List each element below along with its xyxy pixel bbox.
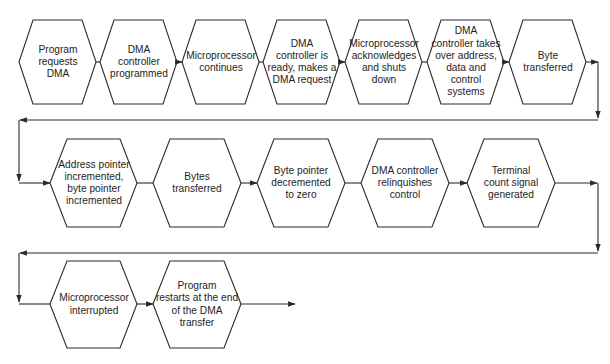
step-label-s7: Byte transferred — [510, 20, 586, 104]
step-label-s6: DMA controller takes over address, data … — [426, 20, 506, 104]
step-label-s11: DMA controller relinquishes control — [364, 139, 446, 227]
step-label-s3: Microprocessor continues — [181, 20, 261, 104]
step-label-s9: Bytes transferred — [156, 139, 238, 227]
step-label-s10: Byte pointer decremented to zero — [260, 139, 342, 227]
step-label-s12: Terminal count signal generated — [470, 139, 552, 227]
step-label-s2: DMA controller programmed — [103, 20, 175, 104]
step-label-s1: Program requests DMA — [22, 20, 94, 104]
dma-flowchart: Program requests DMA DMA controller prog… — [0, 0, 610, 364]
step-label-s8: Address pointer incremented, byte pointe… — [53, 139, 135, 227]
step-label-s13: Microprocessor interrupted — [53, 261, 135, 348]
step-label-s5: Microprocessor acknowledges and shuts do… — [344, 20, 424, 104]
step-label-s4: DMA controller is ready, makes a DMA req… — [262, 20, 342, 104]
step-label-s14: Program restarts at the end of the DMA t… — [154, 261, 240, 348]
